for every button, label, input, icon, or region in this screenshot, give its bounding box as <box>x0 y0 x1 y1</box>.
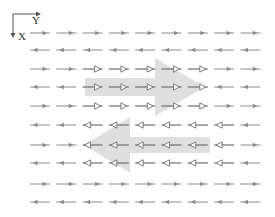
arrow-right-icon <box>240 182 260 186</box>
arrow-right-icon <box>214 104 234 108</box>
arrow-right-hollow-icon <box>109 103 129 109</box>
arrow-left-icon <box>109 200 129 204</box>
arrow-left-hollow-icon <box>214 122 234 128</box>
arrow-right-icon <box>162 182 182 186</box>
x-axis-arrowhead-icon <box>11 33 16 38</box>
x-axis-label: X <box>18 31 26 42</box>
arrow-left-icon <box>240 161 260 165</box>
arrow-right-icon <box>30 143 50 147</box>
arrow-left-icon <box>214 48 234 52</box>
arrow-right-hollow-icon <box>188 103 208 109</box>
arrow-right-icon <box>214 67 234 71</box>
arrow-left-icon <box>240 200 260 204</box>
arrow-right-hollow-icon <box>83 66 103 72</box>
arrow-left-icon <box>30 48 50 52</box>
arrow-right-hollow-icon <box>135 66 155 72</box>
arrow-left-icon <box>214 85 234 89</box>
arrow-right-icon <box>188 182 208 186</box>
arrow-right-icon <box>56 143 76 147</box>
arrow-left-icon <box>162 200 182 204</box>
arrow-right-icon <box>109 31 129 35</box>
arrow-left-icon <box>214 200 234 204</box>
arrow-right-icon <box>240 104 260 108</box>
arrow-right-icon <box>83 182 103 186</box>
arrow-left-icon <box>30 123 50 127</box>
arrow-right-icon <box>162 31 182 35</box>
y-axis-label: Y <box>32 15 40 26</box>
arrow-right-icon <box>30 104 50 108</box>
arrow-left-icon <box>83 200 103 204</box>
arrow-left-icon <box>135 200 155 204</box>
arrow-right-icon <box>83 31 103 35</box>
arrow-right-icon <box>56 31 76 35</box>
arrow-right-icon <box>240 67 260 71</box>
arrow-left-icon <box>30 161 50 165</box>
arrow-left-hollow-icon <box>135 122 155 128</box>
arrow-left-icon <box>188 200 208 204</box>
arrow-right-icon <box>214 182 234 186</box>
arrow-right-icon <box>214 31 234 35</box>
arrow-left-hollow-icon <box>162 160 182 166</box>
arrow-right-icon <box>135 31 155 35</box>
arrow-right-icon <box>109 182 129 186</box>
arrow-left-icon <box>240 85 260 89</box>
arrow-left-hollow-icon <box>135 160 155 166</box>
arrow-left-hollow-icon <box>214 160 234 166</box>
arrow-right-icon <box>240 143 260 147</box>
arrow-right-icon <box>30 31 50 35</box>
arrow-left-icon <box>30 85 50 89</box>
arrow-right-hollow-icon <box>83 103 103 109</box>
arrow-left-hollow-icon <box>83 160 103 166</box>
arrow-right-hollow-icon <box>188 66 208 72</box>
arrow-left-hollow-icon <box>83 122 103 128</box>
arrow-left-hollow-icon <box>214 142 234 148</box>
arrow-left-icon <box>30 200 50 204</box>
arrow-left-hollow-icon <box>162 122 182 128</box>
arrow-left-hollow-icon <box>188 160 208 166</box>
arrow-left-icon <box>162 48 182 52</box>
arrow-left-icon <box>109 48 129 52</box>
arrow-left-icon <box>240 48 260 52</box>
arrow-right-icon <box>240 31 260 35</box>
arrow-right-icon <box>30 182 50 186</box>
arrow-right-icon <box>56 182 76 186</box>
arrow-left-icon <box>240 123 260 127</box>
arrow-right-icon <box>30 67 50 71</box>
arrow-left-icon <box>83 48 103 52</box>
arrow-right-hollow-icon <box>135 103 155 109</box>
arrow-left-icon <box>56 200 76 204</box>
arrow-left-icon <box>56 85 76 89</box>
arrow-left-icon <box>56 161 76 165</box>
arrow-right-icon <box>135 182 155 186</box>
arrow-grid <box>30 31 260 204</box>
arrow-right-icon <box>56 67 76 71</box>
arrow-right-hollow-icon <box>109 66 129 72</box>
arrow-left-icon <box>135 48 155 52</box>
big-arrows <box>84 58 210 173</box>
arrow-left-hollow-icon <box>188 122 208 128</box>
arrow-right-icon <box>188 31 208 35</box>
arrow-left-icon <box>56 123 76 127</box>
vector-field-diagram <box>0 0 275 217</box>
arrow-left-icon <box>188 48 208 52</box>
arrow-right-icon <box>56 104 76 108</box>
arrow-left-icon <box>56 48 76 52</box>
